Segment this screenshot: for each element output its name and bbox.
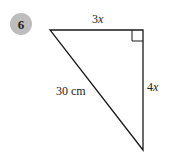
right-side-label: 4x [147,80,159,94]
question-number: 6 [18,17,25,32]
hypotenuse-label: 30 cm [56,84,86,98]
right-triangle-diagram: 6 3x 4x 30 cm [0,0,172,153]
top-side-label: 3x [92,12,104,26]
right-angle-marker [132,30,143,41]
question-number-badge: 6 [10,13,32,35]
